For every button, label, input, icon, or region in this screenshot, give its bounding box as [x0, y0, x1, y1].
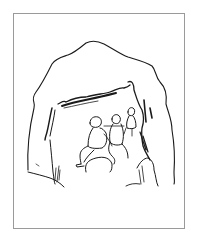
cave-inner-left-lower [50, 140, 55, 184]
grass-tufts [55, 166, 60, 182]
boulder-seat [85, 157, 112, 172]
ground-left [28, 172, 64, 187]
rock-right [137, 158, 158, 186]
cave-inner-left-wall [45, 108, 52, 140]
ground-right [126, 184, 140, 186]
rock-right-hatching [139, 166, 144, 184]
cave-right-shadow-1 [144, 100, 146, 122]
figure-front [76, 117, 112, 167]
cave-right-shadow-2 [150, 108, 152, 118]
figure-middle [104, 115, 128, 164]
cave-illustration [0, 0, 198, 241]
figure-back [124, 108, 136, 136]
cave-inner-top [58, 85, 130, 104]
ground-mark [36, 164, 39, 166]
